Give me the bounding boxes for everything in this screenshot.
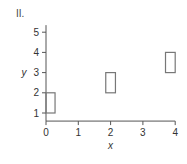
chart: 1234501234yx (0, 0, 187, 164)
data-rectangle (106, 73, 116, 93)
y-tick-label: 1 (33, 108, 39, 119)
y-tick-label: 3 (33, 67, 39, 78)
x-tick-label: 1 (76, 127, 82, 138)
x-tick-label: 3 (140, 127, 146, 138)
data-rectangle (46, 93, 55, 113)
y-tick-label: 2 (33, 87, 39, 98)
y-axis-label: y (21, 67, 28, 78)
x-tick-label: 4 (172, 127, 178, 138)
data-rectangle (166, 52, 176, 72)
y-tick-label: 5 (33, 27, 39, 38)
x-tick-label: 2 (108, 127, 114, 138)
x-tick-label: 0 (43, 127, 49, 138)
y-tick-label: 4 (33, 47, 39, 58)
x-axis-label: x (107, 140, 114, 151)
